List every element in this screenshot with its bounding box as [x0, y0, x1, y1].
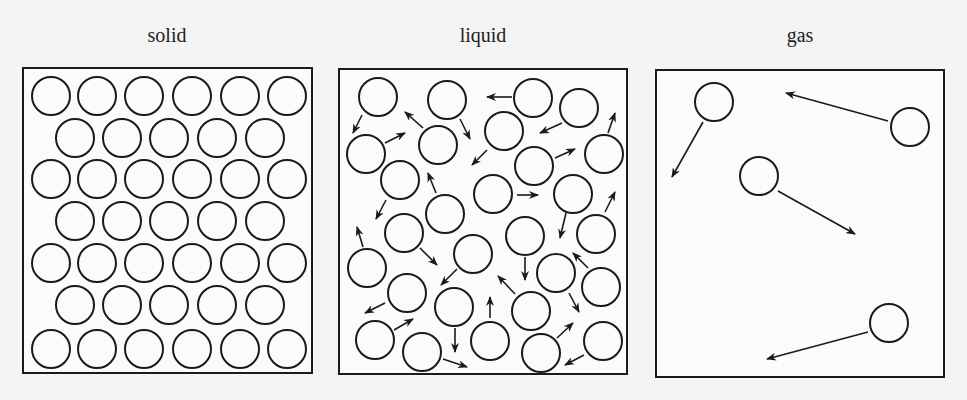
panel-title-gas: gas [787, 24, 814, 47]
panel-title-liquid: liquid [460, 24, 507, 47]
container-box-gas [656, 70, 944, 377]
panel-solid: solid [23, 24, 312, 373]
panel-liquid: liquid [339, 24, 627, 374]
panel-gas: gas [656, 24, 944, 377]
states-of-matter-diagram: solid liquid gas [0, 0, 967, 400]
panel-title-solid: solid [148, 24, 187, 46]
container-box-solid [23, 68, 312, 373]
